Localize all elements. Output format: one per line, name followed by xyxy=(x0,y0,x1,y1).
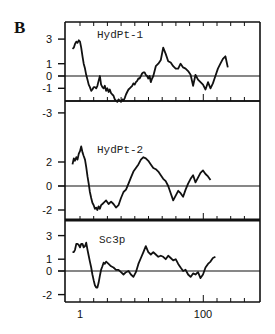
y-tick-label: -2 xyxy=(42,289,52,301)
y-tick-label: -2 xyxy=(42,204,52,216)
y-tick-label: 1 xyxy=(46,253,52,265)
y-tick-label: 3 xyxy=(46,33,52,45)
y-tick-label: -1 xyxy=(42,82,52,94)
y-tick-label: 0 xyxy=(46,70,52,82)
panel-title: HydPt-2 xyxy=(97,144,143,156)
panel-sc3p: 310-2Sc3p xyxy=(42,220,260,302)
panel-hydpt-1: 310-1-3HydPt-1 xyxy=(42,22,260,119)
y-tick-label: 2 xyxy=(46,156,52,168)
panel-hydpt-2: 20-2HydPt-2 xyxy=(42,101,260,220)
y-tick-label: 0 xyxy=(46,180,52,192)
panel-title: HydPt-1 xyxy=(97,29,144,41)
y-tick-label: 1 xyxy=(46,58,52,70)
series-line-sc3p xyxy=(73,243,216,288)
y-tick-label: -3 xyxy=(42,107,52,119)
panel-title: Sc3p xyxy=(99,234,125,246)
y-tick-label: 0 xyxy=(46,265,52,277)
hydropathy-figure: B 310-1-3HydPt-120-2HydPt-2310-2Sc3p1100 xyxy=(0,0,275,334)
figure-label: B xyxy=(14,18,25,37)
x-tick-label: 1 xyxy=(77,308,83,320)
y-tick-label: 3 xyxy=(46,230,52,242)
series-line-hydpt-1 xyxy=(73,40,228,102)
x-tick-label: 100 xyxy=(194,308,212,320)
